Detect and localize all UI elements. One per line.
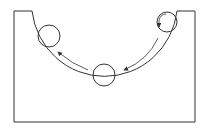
- u-track-diagram: [0, 0, 209, 133]
- motion-arrow-up-icon: [58, 52, 88, 70]
- ball-bottom: [93, 64, 115, 86]
- motion-arrow-down-icon: [124, 38, 158, 70]
- ball-upper-right: [157, 12, 177, 32]
- rotation-arrow-icon: [159, 14, 166, 27]
- ball-upper-left: [38, 25, 60, 47]
